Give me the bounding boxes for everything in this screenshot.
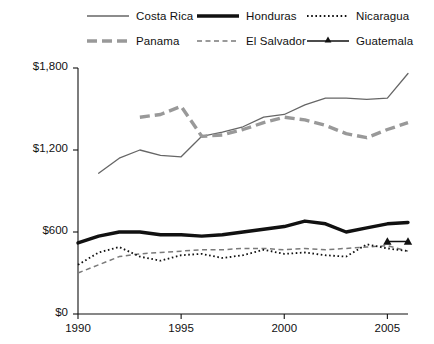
legend-label-panama: Panama [136, 35, 179, 47]
legend-swatch-dashed-thin-icon [196, 34, 240, 48]
series-line-panama [140, 106, 408, 137]
plot-svg [0, 58, 434, 344]
series-line-honduras [78, 221, 408, 243]
legend-label-guatemala: Guatemala [356, 35, 413, 47]
legend-item-panama: Panama [86, 33, 179, 49]
x-tick-label: 2005 [357, 322, 417, 334]
legend-swatch-solid-thick-icon [196, 9, 240, 23]
legend-swatch-solid-thin-icon [86, 9, 130, 23]
legend-item-nicaragua: Nicaragua [306, 8, 409, 24]
legend-swatch-dotted-icon [306, 9, 350, 23]
legend-swatch-dashed-thick-icon [86, 34, 130, 48]
y-tick-label: $1,200 [0, 142, 68, 154]
y-tick-label: $1,800 [0, 60, 68, 72]
x-tick-label: 2000 [254, 322, 314, 334]
x-tick-label: 1990 [48, 322, 108, 334]
y-tick-label: $600 [0, 224, 68, 236]
legend-item-el-salvador: El Salvador [196, 33, 306, 49]
chart-legend: Costa Rica Honduras Nicaragua Panama El [0, 0, 434, 58]
legend-item-guatemala: Guatemala [306, 33, 413, 49]
legend-label-honduras: Honduras [246, 10, 297, 22]
y-tick-label: $0 [0, 306, 68, 318]
line-chart: Costa Rica Honduras Nicaragua Panama El [0, 0, 434, 344]
x-tick-label: 1995 [151, 322, 211, 334]
legend-label-el-salvador: El Salvador [246, 35, 306, 47]
series-line-el-salvador [78, 246, 408, 273]
series-line-costa-rica [99, 73, 408, 173]
legend-item-costa-rica: Costa Rica [86, 8, 193, 24]
legend-swatch-solid-marker-icon [306, 34, 350, 48]
legend-label-nicaragua: Nicaragua [356, 10, 409, 22]
plot-area: $0$600$1,200$1,8001990199520002005 [0, 58, 434, 344]
legend-label-costa-rica: Costa Rica [136, 10, 193, 22]
legend-item-honduras: Honduras [196, 8, 297, 24]
